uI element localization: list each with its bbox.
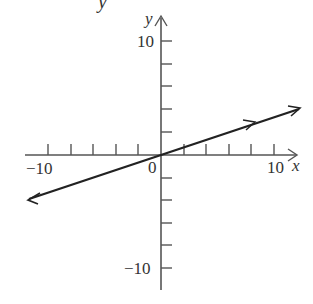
y-max-label: 10	[137, 33, 154, 50]
coordinate-plane	[0, 0, 313, 304]
y-axis-label: y	[145, 10, 153, 27]
x-axis-label: x	[292, 157, 300, 174]
top-partial-label: y	[98, 0, 107, 11]
x-max-label: 10	[267, 159, 284, 176]
line-y-equals-x-over-3	[29, 109, 299, 199]
y-min-label: −10	[124, 260, 151, 277]
x-min-label: −10	[26, 160, 53, 177]
line-left-arrow-icon	[28, 193, 40, 204]
origin-label: 0	[148, 159, 157, 176]
